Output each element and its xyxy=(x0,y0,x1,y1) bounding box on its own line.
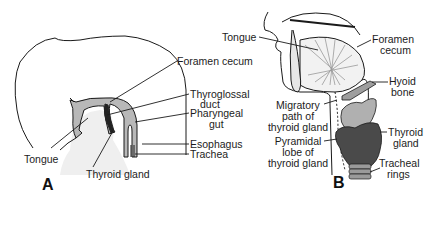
label-thyroid-gland-a: Thyroid gland xyxy=(86,169,150,180)
label-foramen-cecum-b-line2: cecum xyxy=(380,45,411,56)
label-tongue-a: Tongue xyxy=(24,154,58,165)
label-pharyngeal-gut-line2: gut xyxy=(209,119,224,130)
tracheal-rings-shape xyxy=(349,164,371,179)
label-hyoid-bone-line2: bone xyxy=(391,87,414,98)
panel-letter-b: B xyxy=(333,174,345,192)
panel-letter-a: A xyxy=(42,176,54,194)
label-tracheal-rings-line2: rings xyxy=(387,169,410,180)
thyroid-gland-dark xyxy=(336,123,382,168)
label-thyroid-gland-b-line2: gland xyxy=(393,138,419,149)
label-pyramidal-lobe-line3: thyroid gland xyxy=(262,158,334,169)
label-tongue-b: Tongue xyxy=(222,32,256,43)
label-migratory-path-line3: thyroid gland xyxy=(262,122,334,133)
label-foramen-cecum-a: Foramen cecum xyxy=(177,56,253,67)
label-trachea: Trachea xyxy=(190,149,228,160)
